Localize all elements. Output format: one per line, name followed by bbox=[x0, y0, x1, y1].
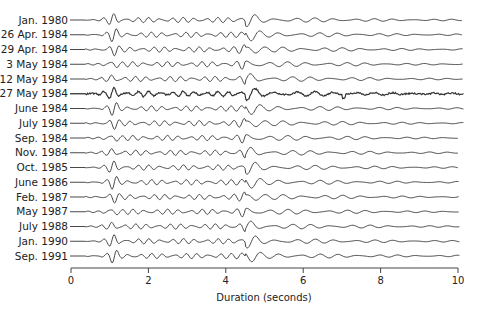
x-tick-label: 6 bbox=[300, 275, 306, 286]
seismogram-traces bbox=[85, 14, 463, 263]
seismogram-trace bbox=[85, 147, 458, 158]
x-tick-label: 0 bbox=[68, 275, 74, 286]
trace-label: June 1984 bbox=[14, 102, 68, 114]
x-tick-label: 8 bbox=[377, 275, 383, 286]
x-axis: 0246810 bbox=[68, 268, 465, 286]
trace-label: 29 Apr. 1984 bbox=[1, 43, 69, 55]
x-axis-label: Duration (seconds) bbox=[216, 292, 311, 303]
x-tick-label: 10 bbox=[452, 275, 465, 286]
trace-label: Sep. 1984 bbox=[15, 132, 69, 144]
trace-label: June 1986 bbox=[14, 176, 68, 188]
seismogram-trace bbox=[85, 103, 463, 116]
seismogram-trace bbox=[85, 192, 459, 203]
x-tick-label: 2 bbox=[145, 275, 151, 286]
trace-label: May 1987 bbox=[16, 205, 68, 217]
seismogram-trace bbox=[85, 208, 459, 216]
trace-label: Nov. 1984 bbox=[15, 146, 68, 158]
trace-label: 27 May 1984 bbox=[0, 87, 68, 99]
seismogram-trace bbox=[85, 177, 459, 190]
seismogram-trace bbox=[85, 135, 458, 143]
seismogram-trace bbox=[85, 250, 459, 263]
trace-label: 26 Apr. 1984 bbox=[1, 28, 69, 40]
seismogram-trace bbox=[85, 61, 463, 69]
trace-label: Feb. 1987 bbox=[16, 191, 68, 203]
seismogram-trace bbox=[85, 161, 458, 174]
trace-label: Oct. 1985 bbox=[16, 161, 68, 173]
seismogram-trace bbox=[85, 29, 462, 42]
trace-label: Jan. 1980 bbox=[17, 14, 68, 26]
x-tick-label: 4 bbox=[223, 275, 229, 286]
seismogram-trace bbox=[85, 118, 463, 129]
trace-label: July 1988 bbox=[18, 220, 68, 232]
seismogram-trace bbox=[85, 87, 463, 100]
trace-label: July 1984 bbox=[18, 117, 68, 129]
trace-label: 12 May 1984 bbox=[0, 73, 68, 85]
trace-labels: Jan. 198026 Apr. 198429 Apr. 19843 May 1… bbox=[0, 14, 68, 262]
seismogram-chart: Jan. 198026 Apr. 198429 Apr. 19843 May 1… bbox=[0, 0, 483, 313]
trace-label: Jan. 1990 bbox=[17, 235, 68, 247]
seismogram-trace bbox=[85, 235, 459, 248]
seismogram-trace bbox=[85, 221, 459, 232]
seismogram-trace bbox=[85, 74, 463, 85]
trace-label: Sep. 1991 bbox=[15, 250, 68, 262]
trace-leader-lines bbox=[70, 20, 85, 256]
seismogram-trace bbox=[85, 14, 462, 27]
seismogram-trace bbox=[85, 45, 463, 56]
trace-label: 3 May 1984 bbox=[6, 58, 68, 70]
